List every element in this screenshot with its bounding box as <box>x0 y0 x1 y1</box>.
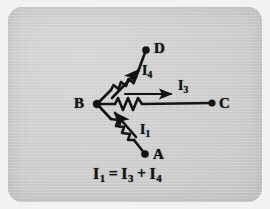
eq-term-0: I <box>93 165 100 182</box>
current-label-i1: I1 <box>140 123 150 139</box>
node-label-c: C <box>219 96 230 111</box>
node-dot-d <box>142 46 150 54</box>
resistor-bc <box>115 98 142 110</box>
node-dot-b <box>93 100 101 108</box>
eq-term-4: 3 <box>128 172 134 184</box>
screenshot-root: B C D A I4 I3 I1 I1=I3+I4 <box>0 0 270 209</box>
current-label-i3: I3 <box>178 79 188 95</box>
eq-term-7: 4 <box>156 172 162 184</box>
current-subscript-i3: 3 <box>183 85 188 95</box>
current-subscript-i4: 4 <box>147 70 152 80</box>
node-label-b: B <box>74 96 84 111</box>
equation-kirchhoff: I1=I3+I4 <box>93 166 162 184</box>
resistor-bd <box>111 77 136 90</box>
wire-resistor-bc-to-c <box>142 103 212 104</box>
node-label-d: D <box>154 41 165 56</box>
current-label-i4: I4 <box>142 64 152 80</box>
current-subscript-i1: 1 <box>145 129 150 139</box>
node-label-a: A <box>153 147 164 162</box>
node-dot-a <box>141 150 149 158</box>
scanned-figure-card: B C D A I4 I3 I1 I1=I3+I4 <box>8 7 262 202</box>
eq-term-1: 1 <box>100 172 106 184</box>
eq-term-5: + <box>137 165 147 182</box>
eq-term-2: = <box>109 165 119 182</box>
node-dot-c <box>208 99 215 106</box>
